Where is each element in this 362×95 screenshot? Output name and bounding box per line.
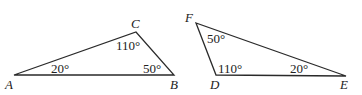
angle-label-f: 50°: [207, 31, 225, 46]
angle-label-d: 110°: [218, 61, 242, 76]
triangle-def: F D E 50° 110° 20°: [184, 10, 348, 92]
angle-label-b: 50°: [143, 61, 161, 76]
angle-label-c: 110°: [116, 38, 140, 53]
vertex-label-f: F: [184, 10, 194, 25]
angle-label-e: 20°: [290, 61, 308, 76]
angle-label-a: 20°: [51, 61, 69, 76]
vertex-label-d: D: [209, 77, 220, 92]
vertex-label-a: A: [4, 77, 13, 92]
diagram-canvas: A B C 20° 50° 110° F D E 50° 110° 20°: [0, 0, 362, 95]
vertex-label-b: B: [170, 77, 178, 92]
triangle-abc: A B C 20° 50° 110°: [4, 16, 178, 92]
vertex-label-e: E: [339, 77, 348, 92]
vertex-label-c: C: [131, 16, 140, 31]
